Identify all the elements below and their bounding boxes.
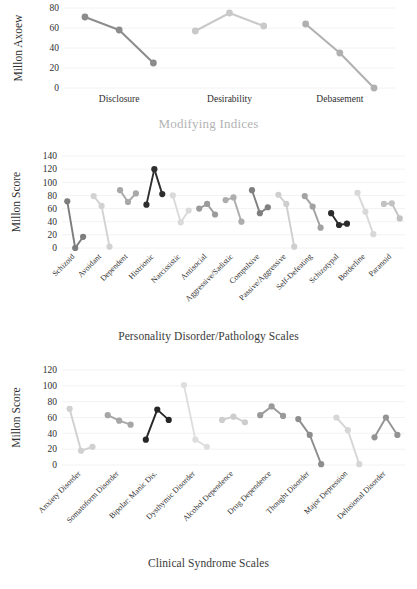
x-axis-category-label: Debasement <box>316 94 363 104</box>
data-point-marker <box>226 10 233 17</box>
data-point-marker <box>336 222 342 228</box>
y-axis-tick-label: 40 <box>50 43 60 53</box>
series-group <box>333 414 362 467</box>
data-point-marker <box>371 434 377 440</box>
series-line-segment <box>146 169 154 204</box>
series-group <box>302 21 377 92</box>
data-point-marker <box>82 14 89 21</box>
x-axis-category-label: Schizoid <box>50 252 76 278</box>
data-point-marker <box>302 193 308 199</box>
data-point-marker <box>159 191 165 197</box>
series-line-segment <box>234 197 242 221</box>
chart-3-xaxis-title: Clinical Syndrome Scales <box>0 557 417 569</box>
data-point-marker <box>98 203 104 209</box>
y-axis-tick-label: 120 <box>43 164 58 174</box>
series-group <box>295 416 324 467</box>
data-point-marker <box>333 414 339 420</box>
data-point-marker <box>143 437 149 443</box>
data-point-marker <box>383 414 389 420</box>
data-point-marker <box>105 412 111 418</box>
x-axis-category-label: Dependent <box>99 252 130 283</box>
data-point-marker <box>310 204 316 210</box>
data-point-marker <box>222 197 228 203</box>
series-group <box>257 403 286 419</box>
y-axis-tick-label: 20 <box>50 63 60 73</box>
data-point-marker <box>204 444 210 450</box>
y-axis-tick-label: 140 <box>43 151 58 161</box>
data-point-marker <box>196 205 202 211</box>
data-point-marker <box>80 234 86 240</box>
data-point-marker <box>91 193 97 199</box>
series-line-segment <box>286 204 294 247</box>
x-axis-category-label: Borderline <box>336 252 367 283</box>
data-point-marker <box>275 192 281 198</box>
series-group <box>381 200 403 221</box>
data-point-marker <box>336 50 343 57</box>
data-point-marker <box>219 417 225 423</box>
y-axis-tick-label: 0 <box>52 243 57 253</box>
data-point-marker <box>181 382 187 388</box>
series-line-segment <box>230 13 264 26</box>
series-group <box>64 198 86 251</box>
data-point-marker <box>249 187 255 193</box>
y-axis-tick-label: 20 <box>48 230 58 240</box>
data-point-marker <box>257 210 263 216</box>
data-point-marker <box>242 419 248 425</box>
series-line-segment <box>386 418 397 435</box>
y-axis-tick-label: 80 <box>50 3 60 13</box>
x-axis-category-label: Paranoid <box>367 252 393 278</box>
chart-clinical-syndrome-scales: 020406080100120Millon ScoreAnxiety Disor… <box>0 362 417 589</box>
series-line-segment <box>313 207 321 228</box>
series-line-segment <box>252 190 260 213</box>
y-axis-tick-label: 60 <box>50 23 60 33</box>
chart-3-plot: 020406080100120Millon ScoreAnxiety Disor… <box>0 362 417 557</box>
y-axis-tick-label: 0 <box>54 83 59 93</box>
data-point-marker <box>230 414 236 420</box>
series-line-segment <box>365 212 373 234</box>
data-point-marker <box>151 166 157 172</box>
data-point-marker <box>133 190 139 196</box>
data-point-marker <box>269 403 275 409</box>
x-axis-category-label: Desirability <box>207 94 252 104</box>
data-point-marker <box>381 201 387 207</box>
data-point-marker <box>356 461 362 467</box>
data-point-marker <box>212 211 218 217</box>
data-point-marker <box>317 225 323 231</box>
y-axis-tick-label: 100 <box>43 178 58 188</box>
series-group <box>219 414 248 426</box>
y-axis-title: Millon Score <box>10 172 22 232</box>
series-line-segment <box>119 30 153 63</box>
data-point-marker <box>257 412 263 418</box>
y-axis-title: Millon Score <box>10 387 22 447</box>
data-point-marker <box>125 199 131 205</box>
data-point-marker <box>345 427 351 433</box>
y-axis-tick-label: 80 <box>48 191 58 201</box>
y-axis-title: Millon Axoew <box>12 14 24 81</box>
series-group <box>328 210 350 228</box>
data-point-marker <box>328 210 334 216</box>
series-line-segment <box>102 206 110 247</box>
y-axis-tick-label: 80 <box>48 397 58 407</box>
series-group <box>196 201 218 218</box>
data-point-marker <box>397 215 403 221</box>
series-group <box>143 406 172 442</box>
x-axis-category-label: Narcissistic <box>149 252 182 285</box>
data-point-marker <box>307 432 313 438</box>
series-line-segment <box>146 410 157 440</box>
data-point-marker <box>260 23 267 30</box>
data-point-marker <box>371 85 378 92</box>
series-group <box>67 406 96 454</box>
x-axis-category-label: Aggressive/Sadistic <box>184 252 236 304</box>
data-point-marker <box>204 201 210 207</box>
data-point-marker <box>192 28 199 35</box>
series-group <box>117 187 139 205</box>
data-point-marker <box>67 406 73 412</box>
series-line-segment <box>348 430 359 464</box>
series-line-segment <box>70 409 81 451</box>
chart-1-plot: 020406080Millon AxoewDisclosureDesirabil… <box>0 0 417 118</box>
data-point-marker <box>72 245 78 251</box>
data-point-marker <box>344 221 350 227</box>
series-group <box>82 14 157 67</box>
chart-personality-disorder-scales: 020406080100120140Millon ScoreSchizoidAv… <box>0 150 417 362</box>
data-point-marker <box>318 461 324 467</box>
